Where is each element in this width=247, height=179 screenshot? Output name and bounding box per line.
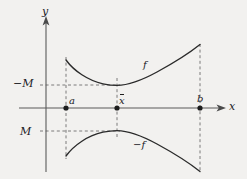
point-a-label: a — [69, 96, 75, 106]
curve-f-label: f — [143, 60, 147, 70]
point-xbar — [114, 105, 119, 110]
point-xbar-label-text: x — [119, 94, 125, 106]
point-b — [197, 105, 202, 110]
x-axis-label: x — [229, 101, 235, 112]
point-xbar-label: x — [119, 94, 125, 106]
point-b-label: b — [197, 94, 204, 104]
figure-canvas — [0, 0, 247, 179]
y-axis-label: y — [42, 6, 48, 17]
curve-minus-f — [66, 131, 200, 172]
upper-bound-tick-label: −M — [13, 78, 34, 89]
lower-bound-tick-label: M — [20, 126, 31, 137]
curve-minus-f-label: −f — [133, 140, 145, 150]
point-a — [63, 105, 68, 110]
curve-f — [66, 45, 200, 86]
math-figure: y x −M M a x b f −f — [0, 0, 247, 179]
